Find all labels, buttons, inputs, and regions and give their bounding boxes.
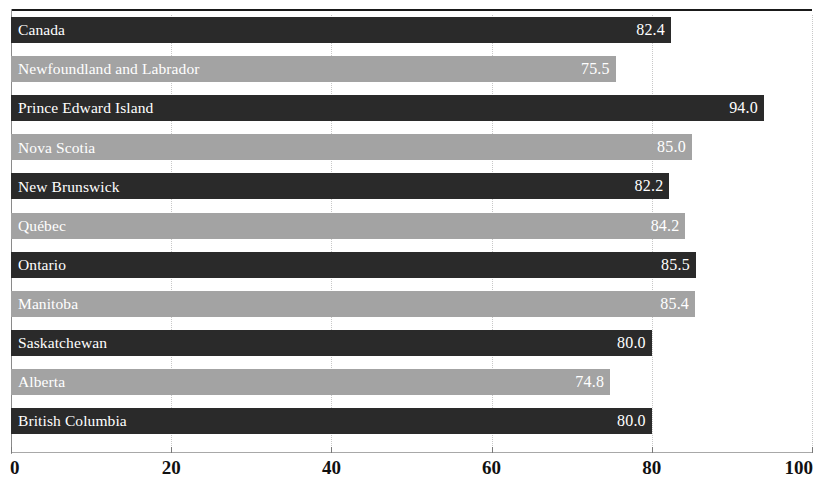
bar-value-label: 75.5 xyxy=(581,61,616,77)
gridline-100 xyxy=(812,15,813,452)
bar[interactable]: Saskatchewan80.0 xyxy=(11,330,652,356)
bar-row: Canada82.4 xyxy=(11,17,812,43)
bar-value-label: 82.2 xyxy=(635,178,670,194)
bar-row: Nova Scotia85.0 xyxy=(11,134,812,160)
chart-top-rule xyxy=(11,9,812,11)
bar-value-label: 85.5 xyxy=(661,257,696,273)
bar-category-label: Canada xyxy=(11,22,65,38)
horizontal-bar-chart: Canada82.4Newfoundland and Labrador75.5P… xyxy=(0,0,825,494)
bar-value-label: 85.0 xyxy=(657,139,692,155)
bar-row: Saskatchewan80.0 xyxy=(11,330,812,356)
x-axis-tick xyxy=(331,447,332,453)
bar-value-label: 82.4 xyxy=(636,22,671,38)
x-axis-tick xyxy=(171,447,172,453)
plot-area: Canada82.4Newfoundland and Labrador75.5P… xyxy=(11,15,812,452)
bar[interactable]: Manitoba85.4 xyxy=(11,291,695,317)
x-axis-tick xyxy=(11,447,12,453)
bar[interactable]: Ontario85.5 xyxy=(11,252,696,278)
x-axis-tick-label: 80 xyxy=(642,458,661,477)
bar-category-label: Nova Scotia xyxy=(11,140,95,156)
x-axis-tick-label: 20 xyxy=(162,458,181,477)
bar-category-label: Saskatchewan xyxy=(11,335,107,351)
bar[interactable]: New Brunswick82.2 xyxy=(11,173,669,199)
bar-row: Prince Edward Island94.0 xyxy=(11,95,812,121)
bar-category-label: Manitoba xyxy=(11,296,78,312)
bar[interactable]: Prince Edward Island94.0 xyxy=(11,95,764,121)
bar-value-label: 74.8 xyxy=(575,374,610,390)
bar[interactable]: Québec84.2 xyxy=(11,213,685,239)
bar[interactable]: Nova Scotia85.0 xyxy=(11,134,692,160)
bar-category-label: Prince Edward Island xyxy=(11,100,153,116)
bar[interactable]: British Columbia80.0 xyxy=(11,408,652,434)
bar-row: British Columbia80.0 xyxy=(11,408,812,434)
bar[interactable]: Alberta74.8 xyxy=(11,369,610,395)
bar-category-label: British Columbia xyxy=(11,413,127,429)
bar-value-label: 80.0 xyxy=(617,335,652,351)
bar-row: Newfoundland and Labrador75.5 xyxy=(11,56,812,82)
x-axis-line xyxy=(11,452,812,453)
x-axis-tick xyxy=(652,447,653,453)
bar-value-label: 85.4 xyxy=(660,296,695,312)
bar[interactable]: Newfoundland and Labrador75.5 xyxy=(11,56,616,82)
x-axis-tick-label: 0 xyxy=(10,458,20,477)
bar[interactable]: Canada82.4 xyxy=(11,17,671,43)
bar-row: New Brunswick82.2 xyxy=(11,173,812,199)
x-axis-tick-label: 100 xyxy=(785,458,814,477)
bar-row: Québec84.2 xyxy=(11,213,812,239)
x-axis-tick xyxy=(492,447,493,453)
bar-category-label: Alberta xyxy=(11,374,65,390)
bar-category-label: Québec xyxy=(11,218,66,234)
bar-value-label: 94.0 xyxy=(729,100,764,116)
bar-row: Alberta74.8 xyxy=(11,369,812,395)
bar-row: Manitoba85.4 xyxy=(11,291,812,317)
x-axis-tick-label: 60 xyxy=(482,458,501,477)
bar-category-label: Ontario xyxy=(11,257,66,273)
bar-value-label: 84.2 xyxy=(651,218,686,234)
bar-row: Ontario85.5 xyxy=(11,252,812,278)
bar-value-label: 80.0 xyxy=(617,413,652,429)
bar-category-label: Newfoundland and Labrador xyxy=(11,61,200,77)
x-axis-tick-label: 40 xyxy=(322,458,341,477)
bar-category-label: New Brunswick xyxy=(11,179,120,195)
x-axis-tick xyxy=(812,447,813,453)
